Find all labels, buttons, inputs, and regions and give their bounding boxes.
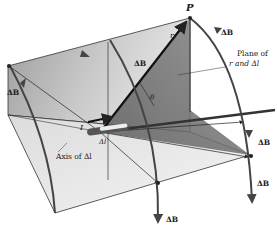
field-arc-right	[190, 18, 252, 200]
label-plane-line1: Plane of	[237, 49, 269, 58]
label-db: ΔB	[134, 59, 146, 68]
label-db: ΔB	[221, 28, 233, 37]
label-db: ΔB	[258, 138, 270, 147]
point-dot	[156, 181, 160, 185]
label-db: ΔB	[166, 215, 178, 224]
point-dot	[7, 64, 11, 68]
label-p: P	[185, 2, 194, 13]
biot-savart-diagram: P r θ I Δl Axis of Δl Plane of r and Δl …	[0, 0, 277, 237]
label-dl: Δl	[98, 138, 106, 146]
point-p-dot	[188, 16, 192, 20]
label-axis: Axis of Δl	[55, 152, 92, 161]
label-db: ΔB	[7, 88, 19, 97]
point-dot	[249, 154, 253, 158]
label-db: ΔB	[257, 179, 269, 188]
label-plane-line2: r and Δl	[229, 59, 260, 68]
